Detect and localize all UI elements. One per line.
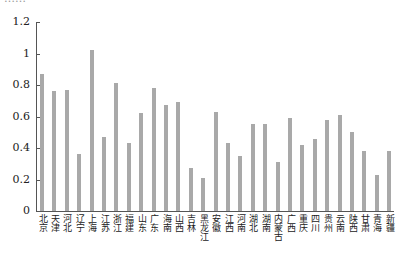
- bar: [387, 151, 391, 211]
- bar: [90, 50, 94, 211]
- x-tick-label: 福建: [124, 214, 134, 232]
- bar: [139, 113, 143, 211]
- bar: [40, 74, 44, 211]
- bar: [102, 137, 106, 211]
- bar: [238, 156, 242, 211]
- bar: [52, 91, 56, 211]
- x-tick-label: 海南: [161, 214, 171, 232]
- x-tick-label: 山西: [173, 214, 183, 232]
- x-tick-label: 内蒙古: [273, 214, 283, 241]
- x-tick-label: 河北: [62, 214, 72, 232]
- bar: [276, 162, 280, 211]
- x-tick-label: 上海: [87, 214, 97, 232]
- bar: [251, 124, 255, 211]
- bar: [288, 118, 292, 211]
- bar: [263, 124, 267, 211]
- y-tick-label: 0.8: [0, 79, 30, 90]
- y-tick-label: 0.4: [0, 142, 30, 153]
- x-tick-label: 北京: [37, 214, 47, 232]
- bar: [77, 154, 81, 211]
- x-tick-label: 四川: [310, 214, 320, 232]
- x-tick-label: 云南: [335, 214, 345, 232]
- y-tick-label: 1: [0, 48, 30, 59]
- bar-chart: …… 00.20.40.60.811.2 北京天津河北辽宁上海江苏浙江福建山东广…: [0, 0, 411, 255]
- cut-off-title: ……: [4, 0, 26, 5]
- x-tick-label: 湖北: [248, 214, 258, 232]
- x-tick-label: 吉林: [186, 214, 196, 232]
- y-tick-label: 0: [0, 205, 30, 216]
- x-tick-label: 青海: [372, 214, 382, 232]
- x-tick-label: 广东: [149, 214, 159, 232]
- x-axis: [36, 211, 394, 212]
- x-tick-label: 江苏: [99, 214, 109, 232]
- x-tick-label: 广西: [285, 214, 295, 232]
- x-tick-label: 河南: [235, 214, 245, 232]
- bar: [176, 102, 180, 211]
- bar: [189, 168, 193, 211]
- x-tick-label: 重庆: [297, 214, 307, 232]
- bar: [325, 120, 329, 211]
- bar: [127, 143, 131, 211]
- bar: [313, 139, 317, 211]
- x-tick-label: 黑龙江: [198, 214, 208, 241]
- x-tick-label: 新疆: [384, 214, 394, 232]
- bar: [338, 115, 342, 211]
- bar: [300, 145, 304, 211]
- y-tick: [36, 54, 40, 55]
- x-tick-label: 辽宁: [74, 214, 84, 232]
- bar: [152, 88, 156, 211]
- bar: [214, 112, 218, 211]
- y-tick-label: 1.2: [0, 16, 30, 27]
- x-tick-label: 甘肃: [359, 214, 369, 232]
- y-tick: [36, 22, 40, 23]
- y-tick-label: 0.2: [0, 174, 30, 185]
- bar: [114, 83, 118, 211]
- x-tick-label: 陕西: [347, 214, 357, 232]
- x-tick-label: 山东: [136, 214, 146, 232]
- x-tick-label: 安徽: [211, 214, 221, 232]
- bar: [164, 105, 168, 211]
- y-tick: [36, 211, 40, 212]
- x-tick-label: 浙江: [111, 214, 121, 232]
- bar: [201, 178, 205, 211]
- bar: [375, 175, 379, 211]
- x-tick-label: 江西: [223, 214, 233, 232]
- y-tick-label: 0.6: [0, 111, 30, 122]
- x-tick-label: 贵州: [322, 214, 332, 232]
- bar: [362, 151, 366, 211]
- bar: [350, 132, 354, 211]
- x-tick-label: 天津: [49, 214, 59, 232]
- x-tick-label: 湖南: [260, 214, 270, 232]
- bar: [65, 90, 69, 211]
- bar: [226, 143, 230, 211]
